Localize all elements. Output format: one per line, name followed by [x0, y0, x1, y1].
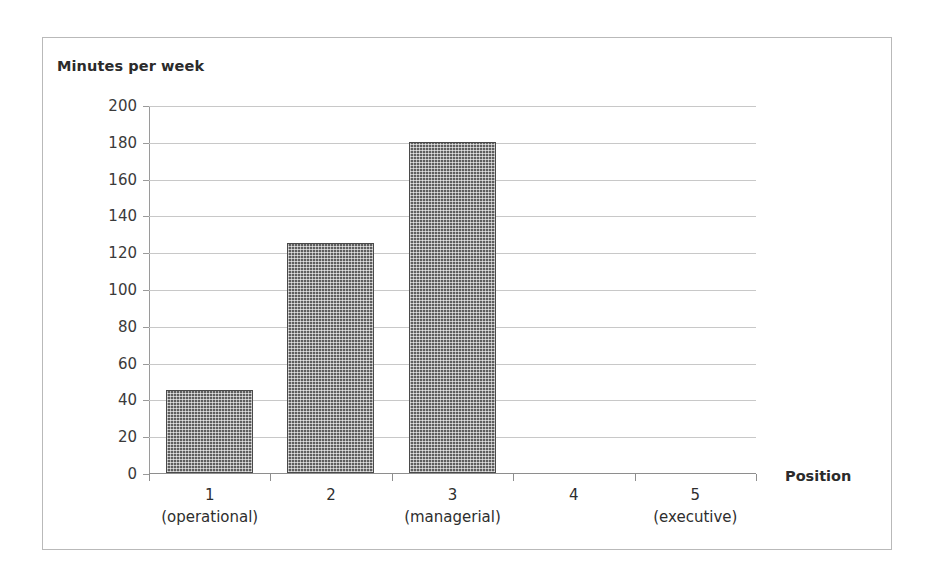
- y-tick-mark: [143, 364, 149, 365]
- bar: [287, 243, 374, 473]
- x-category-number: 5: [635, 486, 756, 505]
- y-tick-label: 120: [108, 244, 137, 262]
- x-category-sublabel: (managerial): [392, 505, 513, 529]
- y-tick-mark: [143, 253, 149, 254]
- y-tick-label: 20: [118, 428, 137, 446]
- y-tick-label: 140: [108, 207, 137, 225]
- y-tick-label: 100: [108, 281, 137, 299]
- x-tick-mark: [270, 474, 271, 481]
- gridline: [149, 106, 756, 107]
- x-category-label: 1(operational): [149, 486, 270, 529]
- x-category-sublabel: (operational): [149, 505, 270, 529]
- x-category-number: 2: [270, 486, 391, 505]
- y-tick-mark: [143, 180, 149, 181]
- y-tick-mark: [143, 143, 149, 144]
- y-tick-mark: [143, 106, 149, 107]
- x-category-number: 1: [149, 486, 270, 505]
- x-tick-mark: [149, 474, 150, 481]
- x-category-label: 5(executive): [635, 486, 756, 529]
- bar: [409, 142, 496, 473]
- plot-area: 200180160140120100806040200: [149, 106, 756, 474]
- x-axis-title: Position: [785, 468, 851, 484]
- x-category-number: 4: [513, 486, 634, 505]
- y-tick-label: 160: [108, 171, 137, 189]
- y-tick-label: 60: [118, 355, 137, 373]
- y-tick-mark: [143, 327, 149, 328]
- y-tick-label: 80: [118, 318, 137, 336]
- y-tick-mark: [143, 437, 149, 438]
- x-category-label: 3(managerial): [392, 486, 513, 529]
- y-axis-title: Minutes per week: [57, 58, 204, 74]
- y-tick-mark: [143, 400, 149, 401]
- x-category-number: 3: [392, 486, 513, 505]
- chart-figure: Minutes per week 20018016014012010080604…: [42, 37, 892, 550]
- y-tick-label: 0: [127, 465, 137, 483]
- bar: [166, 390, 253, 473]
- x-tick-mark: [635, 474, 636, 481]
- y-tick-mark: [143, 216, 149, 217]
- x-tick-mark: [756, 474, 757, 481]
- x-tick-mark: [513, 474, 514, 481]
- x-category-label: 4: [513, 486, 634, 505]
- y-tick-mark: [143, 290, 149, 291]
- x-tick-mark: [392, 474, 393, 481]
- x-axis-line: [149, 473, 756, 474]
- y-tick-label: 200: [108, 97, 137, 115]
- y-tick-label: 40: [118, 391, 137, 409]
- y-tick-label: 180: [108, 134, 137, 152]
- x-category-sublabel: (executive): [635, 505, 756, 529]
- x-category-label: 2: [270, 486, 391, 505]
